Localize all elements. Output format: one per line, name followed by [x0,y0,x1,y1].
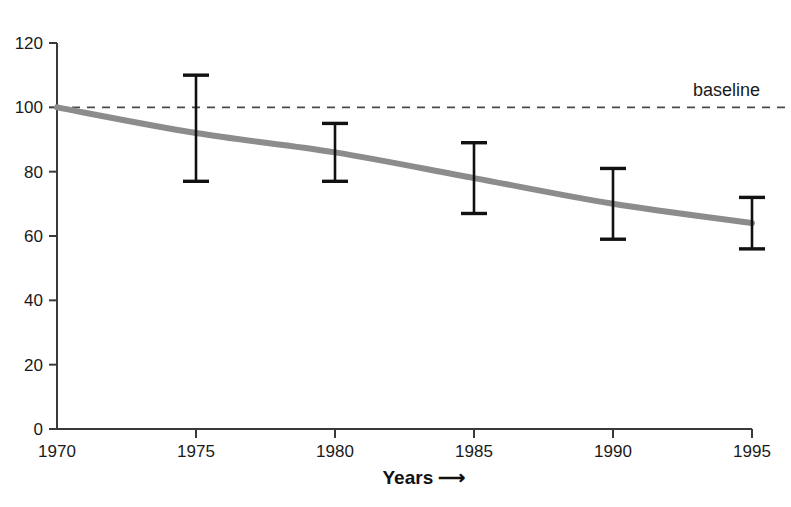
y-axis-tick-label: 120 [15,34,43,53]
x-axis-tick-labels: 197019751980198519901995 [38,442,771,461]
error-bars-group [183,75,765,249]
y-axis-tick-label: 40 [24,291,43,310]
x-axis-tick-label: 1995 [733,442,771,461]
y-axis-tick-label: 0 [34,420,43,439]
x-axis-title: Years ⟶ [383,467,466,488]
y-axis-ticks [49,43,57,429]
x-axis-tick-label: 1970 [38,442,76,461]
trend-line [57,107,752,223]
x-axis-tick-label: 1975 [177,442,215,461]
line-chart-with-error-bars: 020406080100120 197019751980198519901995… [0,0,791,507]
x-axis-ticks [196,429,752,438]
y-axis-tick-label: 60 [24,227,43,246]
axes-group [57,43,752,429]
chart-container: 020406080100120 197019751980198519901995… [0,0,791,507]
baseline-annotation-label: baseline [693,80,760,100]
trend-series-group [57,107,752,223]
error-bar [183,75,209,181]
y-axis-tick-label: 100 [15,98,43,117]
y-axis-tick-label: 80 [24,163,43,182]
y-axis-tick-labels: 020406080100120 [15,34,43,439]
x-axis-tick-label: 1985 [455,442,493,461]
x-axis-tick-label: 1990 [594,442,632,461]
y-axis-tick-label: 20 [24,356,43,375]
x-axis-tick-label: 1980 [316,442,354,461]
